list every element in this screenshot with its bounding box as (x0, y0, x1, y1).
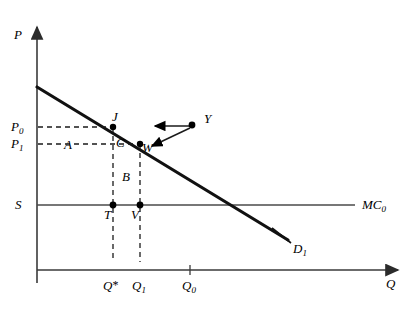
y-tick-s: S (15, 198, 22, 211)
x-tick-q1: Q1 (132, 279, 146, 292)
point-label-W: W (142, 141, 153, 154)
x-tick-qstar-star: * (112, 278, 118, 292)
y-tick-p1-sub: 1 (19, 143, 24, 153)
x-axis-label: Q (386, 277, 395, 290)
demand-curve-label: D1 (293, 242, 307, 255)
y-tick-p1-base: P (11, 136, 19, 151)
y-tick-p0-base: P (11, 119, 19, 134)
y-tick-p0-sub: 0 (19, 126, 24, 136)
region-label-B: B (122, 170, 130, 183)
x-tick-q1-base: Q (132, 278, 141, 293)
demand-curve (37, 87, 288, 240)
y-tick-p0: P0 (11, 120, 23, 133)
x-tick-q0-sub: 0 (191, 285, 196, 295)
x-tick-q0: Q0 (182, 279, 196, 292)
demand-label-leader (272, 228, 291, 243)
point-label-Y: Y (204, 112, 211, 125)
x-tick-q1-sub: 1 (141, 285, 146, 295)
marginal-cost-curve-label: MC0 (362, 198, 386, 211)
point-Y-dot (189, 122, 196, 129)
marginal-cost-label-base: MC (362, 197, 382, 212)
economics-diagram: P Q P0 P1 S Q* Q1 Q0 D1 MC0 J C W Y T V … (0, 0, 414, 309)
point-label-J: J (112, 110, 118, 123)
x-tick-q0-base: Q (182, 278, 191, 293)
demand-curve-label-base: D (293, 241, 302, 256)
region-label-A: A (64, 138, 72, 151)
x-tick-qstar: Q* (103, 279, 118, 292)
x-tick-qstar-base: Q (103, 278, 112, 293)
shift-arrow-diagonal (152, 128, 190, 146)
point-label-C: C (116, 136, 125, 149)
point-label-T: T (104, 208, 111, 221)
y-axis-label: P (14, 28, 22, 41)
point-label-V: V (131, 208, 139, 221)
marginal-cost-label-sub: 0 (382, 204, 387, 214)
diagram-canvas (0, 0, 414, 309)
demand-curve-label-sub: 1 (302, 248, 307, 258)
y-tick-p1: P1 (11, 137, 23, 150)
point-J-dot (110, 124, 116, 130)
